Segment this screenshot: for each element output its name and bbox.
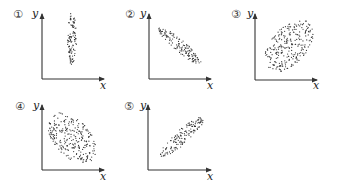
panel-4-y-label: y bbox=[33, 100, 39, 111]
panel-5-x-label: x bbox=[207, 171, 213, 182]
scatter-panel-1 bbox=[42, 13, 104, 79]
panel-1-x-label: x bbox=[100, 80, 106, 91]
scatter-panel-5 bbox=[148, 105, 211, 170]
panel-2-x-label: x bbox=[207, 80, 213, 91]
panel-2-number: ② bbox=[125, 9, 135, 20]
panel-2-y-label: y bbox=[140, 8, 146, 19]
panel-5-number: ⑤ bbox=[124, 101, 134, 112]
panel-1-number: ① bbox=[13, 9, 23, 20]
panel-3-y-label: y bbox=[247, 8, 253, 19]
panel-3-number: ③ bbox=[231, 9, 241, 20]
scatter-panel-4 bbox=[42, 105, 104, 170]
panel-4-x-label: x bbox=[100, 171, 106, 182]
panel-5-y-label: y bbox=[140, 100, 146, 111]
panel-3-x-label: x bbox=[313, 80, 319, 91]
panel-1-y-label: y bbox=[32, 8, 38, 19]
scatter-panel-2 bbox=[149, 14, 211, 79]
panel-4-number: ④ bbox=[15, 101, 25, 112]
scatter-plots-canvas bbox=[0, 0, 341, 194]
scatter-panel-3 bbox=[255, 14, 317, 80]
